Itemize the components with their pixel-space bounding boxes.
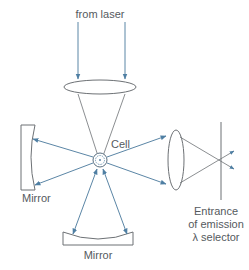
entrance-label-line2: of emission	[188, 218, 244, 230]
focusing-lens	[64, 80, 136, 94]
bottom-mirror-label: Mirror	[84, 249, 113, 261]
beam-to-left-mirror-upper	[33, 139, 93, 157]
focused-beam-upper	[180, 137, 234, 169]
left-mirror-label: Mirror	[22, 192, 51, 204]
left-mirror	[21, 125, 35, 190]
entrance-label-line1: Entrance	[194, 205, 238, 217]
beam-to-lens-lower	[107, 163, 166, 184]
focused-beam-lower	[180, 151, 234, 183]
beam-to-left-mirror-lower	[35, 163, 93, 185]
cell-label: Cell	[111, 138, 130, 150]
beam-bottom-mirror-right	[103, 169, 127, 234]
entrance-label-line3: λ selector	[192, 231, 239, 243]
beam-bottom-mirror-left	[73, 169, 97, 234]
converging-beam-left	[78, 94, 98, 156]
fluorescence-optics-diagram: from laser Cell Mirror Mirror Entrance o…	[0, 0, 249, 270]
collection-lens	[168, 130, 184, 190]
from-laser-label: from laser	[76, 8, 125, 20]
sample-cell	[93, 153, 107, 167]
